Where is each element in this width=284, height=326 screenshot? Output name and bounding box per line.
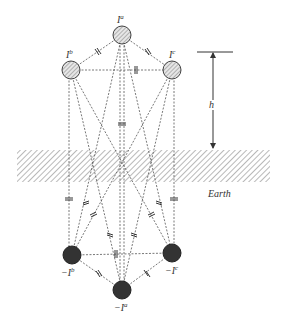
image-conductor-c (163, 244, 181, 262)
label-neg-ic: −Ic (165, 264, 179, 276)
earth-label: Earth (207, 188, 231, 199)
conductor-b (62, 61, 80, 79)
label-ia: Ia (116, 13, 124, 25)
height-label: h (209, 99, 214, 110)
image-method-diagram: h Earth Ia Ib Ic −Ib −Ic −Ia (0, 0, 284, 326)
height-dimension (197, 52, 233, 149)
image-conductor-b (63, 246, 81, 264)
label-ic: Ic (168, 48, 176, 60)
label-ib: Ib (65, 48, 73, 60)
conductor-a (113, 26, 131, 44)
conductor-c (163, 61, 181, 79)
earth-surface (17, 150, 270, 182)
label-neg-ia: −Ia (114, 301, 128, 313)
image-conductor-a (113, 281, 131, 299)
label-neg-ib: −Ib (61, 266, 75, 278)
